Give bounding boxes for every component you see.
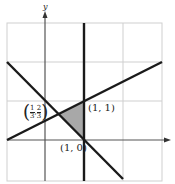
label-point-1-1: (1, 1) bbox=[88, 102, 115, 113]
diagram-canvas bbox=[0, 0, 175, 184]
label-point-1-0: (1, 0) bbox=[60, 142, 87, 153]
y-axis-label: y bbox=[43, 2, 48, 11]
lines bbox=[7, 23, 162, 181]
axes bbox=[7, 14, 168, 181]
label-point-third-two-thirds: ( 1 3 , 2 3 ) bbox=[23, 103, 48, 121]
y-axis-arrow-icon bbox=[43, 11, 48, 18]
x-axis-arrow-icon bbox=[164, 138, 171, 143]
